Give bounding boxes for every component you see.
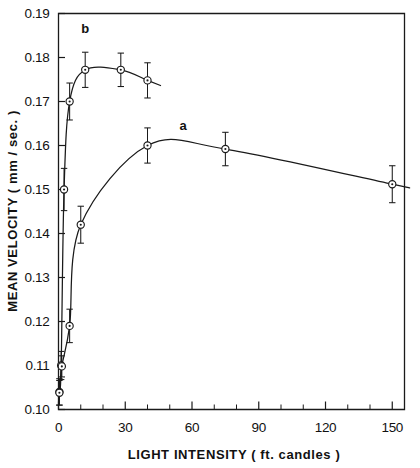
x-axis-ticks xyxy=(59,402,393,410)
data-point-marker xyxy=(60,186,67,193)
x-axis-title: LIGHT INTENSITY ( ft. candles ) xyxy=(128,447,341,462)
y-tick-label: 0.16 xyxy=(24,138,49,153)
y-tick-label: 0.14 xyxy=(24,226,50,241)
x-tick-label: 150 xyxy=(381,420,403,435)
x-tick-label: 120 xyxy=(315,420,337,435)
plot-frame xyxy=(59,14,405,410)
y-tick-label: 0.10 xyxy=(24,402,49,417)
y-tick-label: 0.15 xyxy=(24,182,49,197)
y-tick-label: 0.13 xyxy=(24,270,49,285)
y-tick-label: 0.18 xyxy=(24,50,49,65)
x-tick-label: 60 xyxy=(185,420,199,435)
data-point-marker xyxy=(56,389,63,396)
curve-annotation-b: b xyxy=(81,21,89,36)
x-tick-label: 30 xyxy=(118,420,132,435)
series-annotation-layer: ba xyxy=(81,21,187,133)
x-tick-label: 90 xyxy=(252,420,266,435)
y-axis-tick-labels: 0.100.110.120.130.140.150.160.170.180.19 xyxy=(24,6,50,417)
y-axis-title: MEAN VELOCITY ( mm / sec. ) xyxy=(5,110,20,312)
y-tick-label: 0.17 xyxy=(24,94,49,109)
data-point-marker xyxy=(222,145,229,152)
y-tick-label: 0.11 xyxy=(25,358,49,373)
series-b xyxy=(56,52,161,405)
data-point-marker xyxy=(144,142,151,149)
series-a xyxy=(56,128,410,405)
mean-velocity-line-chart: 0.100.110.120.130.140.150.160.170.180.19… xyxy=(0,0,420,468)
data-series-layer xyxy=(56,52,410,405)
data-point-marker xyxy=(66,98,73,105)
data-point-marker xyxy=(66,322,73,329)
y-tick-label: 0.12 xyxy=(24,314,49,329)
x-tick-label: 0 xyxy=(55,420,62,435)
figure-container: 0.100.110.120.130.140.150.160.170.180.19… xyxy=(0,0,420,468)
data-point-marker xyxy=(82,66,89,73)
data-point-marker xyxy=(77,221,84,228)
data-point-marker xyxy=(144,77,151,84)
x-axis-tick-labels: 0306090120150 xyxy=(55,420,403,435)
curve-b xyxy=(59,67,160,392)
data-point-marker xyxy=(58,363,65,370)
y-tick-label: 0.19 xyxy=(24,6,49,21)
curve-a xyxy=(59,139,409,392)
plot-border xyxy=(59,14,405,410)
data-point-marker xyxy=(389,181,396,188)
data-point-marker xyxy=(117,66,124,73)
curve-annotation-a: a xyxy=(179,118,187,133)
